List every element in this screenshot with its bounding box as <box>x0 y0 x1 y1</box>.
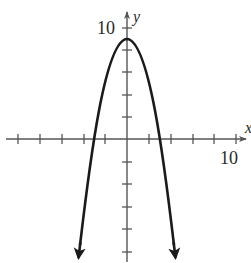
curve-arrow-right <box>174 242 176 258</box>
y-tick-label-10: 10 <box>97 18 115 38</box>
parabola-graph: 10 y 10 x <box>0 0 251 263</box>
x-axis-label: x <box>244 119 251 136</box>
curve-arrow-left <box>79 242 81 258</box>
y-axis-label: y <box>131 8 141 26</box>
x-tick-label-10: 10 <box>220 148 238 168</box>
